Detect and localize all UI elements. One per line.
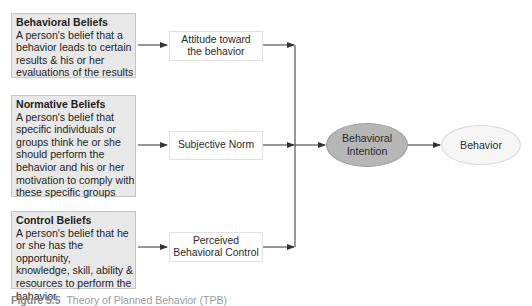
belief-text-line: should perform the: [16, 148, 135, 161]
behavioral-beliefs-box: Behavioral Beliefs A person's belief tha…: [11, 13, 136, 78]
belief-text-line: A person's belief that: [16, 111, 135, 124]
belief-text-line: motivation to comply with: [16, 174, 135, 187]
belief-text-line: A person's belief that he: [16, 227, 135, 240]
perceived-behavioral-control-box: Perceived Behavioral Control: [169, 232, 263, 262]
belief-text-line: these specific groups: [16, 186, 135, 199]
belief-text-line: behavior leads to certain: [16, 41, 135, 54]
behavioral-beliefs-title: Behavioral Beliefs: [16, 16, 135, 29]
behavior-label: Behavior: [460, 139, 502, 152]
belief-text-line: groups think he or she: [16, 136, 135, 149]
belief-text-line: knowledge, skill, ability &: [16, 264, 135, 277]
belief-text-line: behavior and his or her: [16, 161, 135, 174]
belief-text-line: A person's belief that a: [16, 29, 135, 42]
subjective-norm-box: Subjective Norm: [169, 131, 263, 160]
behavioral-intention-node: Behavioral Intention: [326, 123, 408, 167]
behavior-node: Behavior: [441, 125, 521, 165]
belief-text-line: results & his or her: [16, 54, 135, 67]
intention-label: Behavioral: [342, 132, 392, 145]
belief-text-line: evaluations of the results: [16, 66, 135, 79]
caption-text: Theory of Planned Behavior (TPB): [66, 294, 227, 306]
construct-label: Attitude toward: [181, 34, 250, 46]
construct-label: Perceived: [173, 235, 258, 247]
construct-label: the behavior: [181, 46, 250, 58]
belief-text-line: or she has the opportunity,: [16, 239, 135, 264]
figure-number: Figure 5.5: [11, 294, 61, 306]
control-beliefs-title: Control Beliefs: [16, 214, 135, 227]
normative-beliefs-box: Normative Beliefs A person's belief that…: [11, 95, 136, 197]
construct-label: Subjective Norm: [178, 139, 254, 151]
construct-label: Behavioral Control: [173, 247, 258, 259]
normative-beliefs-title: Normative Beliefs: [16, 98, 135, 111]
control-beliefs-box: Control Beliefs A person's belief that h…: [11, 211, 136, 289]
belief-text-line: resources to perform the: [16, 277, 135, 290]
belief-text-line: specific individuals or: [16, 123, 135, 136]
attitude-box: Attitude toward the behavior: [169, 31, 263, 61]
intention-label: Intention: [342, 145, 392, 158]
figure-caption: Figure 5.5 Theory of Planned Behavior (T…: [11, 294, 227, 306]
